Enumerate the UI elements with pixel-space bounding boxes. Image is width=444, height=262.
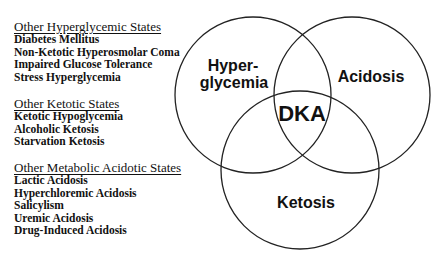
label-acidosis: Acidosis [338,68,405,85]
circle-acidosis [274,17,430,173]
label-dka: DKA [278,101,326,126]
label-hyperglycemia-line2: glycemia [200,74,269,91]
label-ketosis: Ketosis [277,194,335,211]
label-hyperglycemia-line1: Hyper- [208,57,259,74]
venn-diagram: Hyper- glycemia Acidosis DKA Ketosis [0,0,444,262]
circle-hyperglycemia [175,17,331,173]
